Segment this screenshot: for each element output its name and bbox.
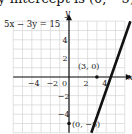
equation-label: 5x − 3y = 15 — [4, 19, 60, 29]
x-tick-label: −4 — [28, 79, 40, 88]
graph: −4−202442−2−4 (3, 0)(0, −5) 5x − 3y = 15… — [0, 0, 132, 134]
x-tick-label: −2 — [46, 79, 58, 88]
x-axis-label: x — [128, 72, 132, 82]
point-label: (0, −5) — [72, 120, 100, 129]
y-tick-label: −2 — [58, 92, 70, 101]
point-label: (3, 0) — [78, 62, 100, 71]
x-tick-label: 0 — [62, 79, 67, 88]
axes — [13, 14, 132, 133]
y-axis-label: y — [64, 8, 71, 18]
point-marker — [95, 75, 99, 79]
y-tick-label: 2 — [62, 54, 67, 63]
y-tick-label: 4 — [62, 36, 67, 45]
point-marker — [67, 122, 71, 126]
x-tick-label: 2 — [84, 79, 89, 88]
y-tick-label: −4 — [58, 110, 70, 119]
